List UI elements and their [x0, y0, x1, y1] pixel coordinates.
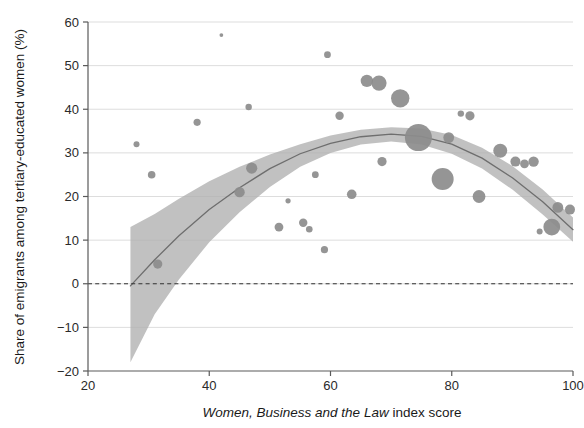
- y-axis-title: Share of emigrants among tertiary-educat…: [12, 29, 27, 365]
- data-point: [321, 246, 328, 253]
- data-point: [335, 112, 343, 120]
- data-point: [391, 89, 409, 107]
- data-point: [493, 144, 507, 158]
- y-tick-label-20: 20: [65, 189, 79, 204]
- y-tick-label-10: 10: [65, 233, 79, 248]
- data-point: [246, 163, 257, 174]
- data-point: [245, 104, 251, 110]
- data-point: [510, 157, 520, 167]
- data-point: [148, 171, 156, 179]
- y-tick-label-60: 60: [65, 15, 79, 30]
- data-point: [234, 187, 244, 197]
- x-tick-label-100: 100: [562, 378, 584, 393]
- data-point: [552, 202, 563, 213]
- data-point: [361, 75, 373, 87]
- data-point: [405, 124, 432, 151]
- data-point: [473, 190, 486, 203]
- x-axis-title: Women, Business and the Law index score: [203, 405, 462, 420]
- x-tick-label-40: 40: [202, 378, 216, 393]
- data-point: [371, 75, 386, 90]
- data-point: [458, 110, 464, 116]
- scatter-chart: −20−100102030405060 20406080100 Share of…: [0, 0, 584, 428]
- data-point: [432, 168, 454, 190]
- y-tick-label--10: −10: [57, 320, 79, 335]
- data-point: [324, 51, 331, 58]
- x-axis-title-italic: Women, Business and the Law: [203, 405, 390, 420]
- data-point: [285, 198, 290, 203]
- y-tick-label--20: −20: [57, 364, 79, 379]
- y-tick-label-40: 40: [65, 102, 79, 117]
- data-point: [543, 219, 560, 236]
- data-point: [219, 33, 223, 37]
- y-tick-label-0: 0: [72, 276, 79, 291]
- y-tick-label-30: 30: [65, 145, 79, 160]
- y-tick-label-50: 50: [65, 58, 79, 73]
- data-point: [153, 260, 162, 269]
- data-point: [134, 141, 140, 147]
- data-point: [299, 218, 307, 226]
- data-point: [377, 157, 386, 166]
- data-point: [275, 223, 284, 232]
- data-point: [520, 159, 529, 168]
- chart-canvas: −20−100102030405060 20406080100 Share of…: [0, 0, 584, 428]
- data-point: [194, 119, 201, 126]
- data-point: [306, 226, 313, 233]
- data-point: [528, 156, 538, 166]
- x-tick-label-20: 20: [81, 378, 95, 393]
- data-point: [565, 205, 575, 215]
- data-point: [537, 228, 543, 234]
- data-point: [465, 111, 474, 120]
- data-point: [347, 190, 357, 200]
- x-tick-label-60: 60: [323, 378, 337, 393]
- x-tick-label-80: 80: [445, 378, 459, 393]
- data-point: [312, 171, 319, 178]
- x-axis-title-rest: index score: [389, 405, 462, 420]
- data-point: [443, 132, 454, 143]
